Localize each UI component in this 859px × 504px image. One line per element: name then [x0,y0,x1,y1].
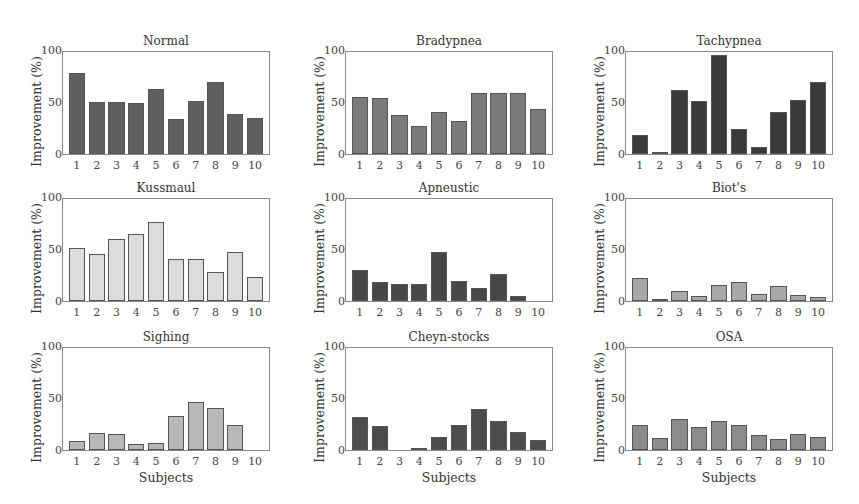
x-tick-5: 5 [709,159,729,172]
x-tick-7: 7 [749,159,769,172]
x-tick-2: 2 [87,306,107,319]
bar-subject-3 [671,90,687,154]
bar-subject-6 [168,259,184,301]
plot-area [625,51,833,155]
x-tick-4: 4 [126,455,146,468]
plot-area [625,347,833,451]
x-tick-4: 4 [409,455,429,468]
y-axis-label: Improvement (%) [592,348,607,468]
x-tick-2: 2 [650,159,670,172]
y-tick-50: 50 [48,243,62,256]
bar-subject-1 [632,425,648,451]
chart-panel-bradypnea: Bradypnea Improvement (%) 0 50 100 12345… [283,34,563,199]
bar-subject-4 [128,234,144,301]
bar-subject-9 [790,295,806,301]
bar-subject-7 [751,435,767,450]
panel-title: Sighing [62,330,270,344]
x-tick-9: 9 [508,455,528,468]
x-tick-6: 6 [166,159,186,172]
bar-subject-1 [352,417,368,450]
y-axis-label: Improvement (%) [29,52,44,172]
x-tick-5: 5 [146,306,166,319]
bar-subject-6 [451,425,467,451]
y-tick-50: 50 [611,243,625,256]
bar-subject-2 [372,98,388,154]
bar-subject-9 [510,93,526,154]
x-tick-5: 5 [709,455,729,468]
x-tick-4: 4 [409,306,429,319]
x-tick-7: 7 [469,159,489,172]
x-tick-2: 2 [87,455,107,468]
bar-subject-7 [471,93,487,154]
x-tick-9: 9 [225,455,245,468]
bar-subject-10 [247,118,263,154]
y-tick-0: 0 [338,444,345,457]
chart-panel-osa: OSA Improvement (%) 0 50 100 12345678910… [563,330,843,495]
panel-title: Kussmaul [62,181,270,195]
bar-subject-10 [810,82,826,154]
bar-subject-1 [69,248,85,301]
bar-subject-1 [632,278,648,301]
bar-subject-8 [770,439,786,450]
chart-panel-biot-s: Biot's Improvement (%) 0 50 100 12345678… [563,181,843,346]
bar-subject-7 [751,294,767,301]
bar-subject-1 [69,73,85,154]
y-tick-0: 0 [618,148,625,161]
x-tick-8: 8 [489,455,509,468]
bar-subject-10 [810,437,826,450]
bar-subject-1 [69,441,85,450]
x-tick-5: 5 [429,306,449,319]
x-tick-5: 5 [146,159,166,172]
bar-subject-10 [247,277,263,301]
x-tick-6: 6 [166,455,186,468]
panel-title: Apneustic [345,181,553,195]
bar-subject-5 [148,222,164,301]
x-tick-7: 7 [749,306,769,319]
bar-subject-1 [352,97,368,154]
x-tick-8: 8 [206,455,226,468]
x-tick-6: 6 [449,159,469,172]
x-tick-8: 8 [769,159,789,172]
x-tick-2: 2 [650,455,670,468]
panel-title: Cheyn-stocks [345,330,553,344]
y-tick-50: 50 [331,96,345,109]
x-tick-3: 3 [669,455,689,468]
bar-subject-1 [352,270,368,301]
x-tick-9: 9 [788,159,808,172]
y-tick-50: 50 [331,392,345,405]
y-tick-50: 50 [48,392,62,405]
x-tick-1: 1 [350,455,370,468]
bar-subject-3 [108,239,124,301]
x-tick-10: 10 [528,306,548,319]
x-tick-2: 2 [87,159,107,172]
x-tick-2: 2 [650,306,670,319]
x-tick-9: 9 [225,159,245,172]
chart-panel-tachypnea: Tachypnea Improvement (%) 0 50 100 12345… [563,34,843,199]
bar-subject-7 [188,259,204,301]
y-tick-50: 50 [331,243,345,256]
bar-subject-6 [168,416,184,450]
bar-subject-8 [770,112,786,154]
bar-subject-4 [411,284,427,301]
bar-subject-2 [652,438,668,450]
x-tick-7: 7 [469,455,489,468]
bar-subject-8 [490,274,506,301]
y-tick-50: 50 [48,96,62,109]
x-tick-4: 4 [126,159,146,172]
x-tick-3: 3 [106,455,126,468]
bar-subject-4 [128,444,144,450]
chart-panel-normal: Normal Improvement (%) 0 50 100 12345678… [0,34,280,199]
x-tick-6: 6 [729,455,749,468]
plot-area [62,347,270,451]
bar-subject-2 [89,433,105,450]
bar-subject-9 [510,432,526,450]
bar-subject-5 [148,443,164,450]
bar-subject-7 [471,409,487,450]
plot-area [345,51,553,155]
bar-subject-7 [751,147,767,154]
x-tick-5: 5 [429,455,449,468]
y-tick-0: 0 [55,148,62,161]
bar-subject-5 [431,252,447,301]
bar-subject-2 [372,426,388,450]
y-tick-0: 0 [338,148,345,161]
